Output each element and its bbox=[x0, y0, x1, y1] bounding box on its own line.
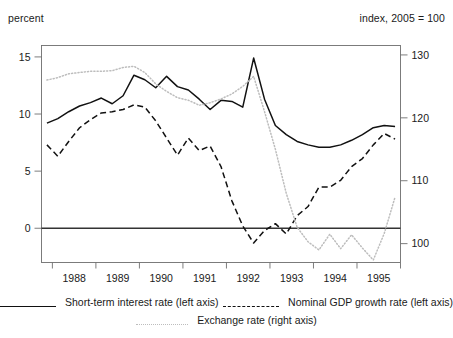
legend-item-exchange-rate: Exchange rate (right axis) bbox=[136, 314, 317, 326]
svg-text:5: 5 bbox=[25, 165, 31, 177]
legend-label-exchange-rate: Exchange rate (right axis) bbox=[197, 314, 317, 326]
legend-label-short-term-interest-rate: Short-term interest rate (left axis) bbox=[65, 296, 218, 308]
legend-row-primary: Short-term interest rate (left axis) Nom… bbox=[0, 296, 453, 308]
series-line-1 bbox=[47, 105, 395, 243]
svg-text:1994: 1994 bbox=[324, 272, 348, 284]
svg-text:120: 120 bbox=[412, 112, 430, 124]
svg-text:1990: 1990 bbox=[149, 272, 173, 284]
x-axis-ticks: 19881989199019911992199319941995 bbox=[52, 263, 400, 284]
svg-text:10: 10 bbox=[19, 108, 31, 120]
data-series-group bbox=[47, 58, 395, 260]
dashed-line-swatch-icon bbox=[223, 298, 279, 307]
solid-line-swatch-icon bbox=[0, 298, 56, 307]
svg-text:1993: 1993 bbox=[280, 272, 304, 284]
legend-item-nominal-gdp-growth-rate: Nominal GDP growth rate (left axis) bbox=[223, 296, 453, 308]
svg-text:1989: 1989 bbox=[106, 272, 130, 284]
svg-text:1995: 1995 bbox=[367, 272, 391, 284]
svg-text:110: 110 bbox=[412, 174, 429, 186]
svg-text:1988: 1988 bbox=[62, 272, 86, 284]
plot-area: 051015 100110120130 19881989199019911992… bbox=[0, 0, 453, 338]
series-line-2 bbox=[47, 66, 395, 260]
left-axis-ticks: 051015 bbox=[19, 51, 42, 234]
right-axis-ticks: 100110120130 bbox=[401, 49, 430, 250]
plot-frame bbox=[42, 46, 401, 263]
svg-text:15: 15 bbox=[19, 51, 31, 63]
legend-item-short-term-interest-rate: Short-term interest rate (left axis) bbox=[0, 296, 218, 308]
svg-text:1991: 1991 bbox=[193, 272, 217, 284]
svg-text:100: 100 bbox=[412, 237, 430, 249]
svg-text:130: 130 bbox=[412, 49, 430, 61]
svg-text:1992: 1992 bbox=[237, 272, 261, 284]
svg-text:0: 0 bbox=[25, 222, 31, 234]
legend-row-secondary: Exchange rate (right axis) bbox=[0, 314, 453, 326]
legend-label-nominal-gdp-growth-rate: Nominal GDP growth rate (left axis) bbox=[288, 296, 453, 308]
chart-figure: percent index, 2005 = 100 051015 1001101… bbox=[0, 0, 453, 338]
dotted-line-swatch-icon bbox=[136, 316, 188, 325]
series-line-0 bbox=[47, 58, 395, 147]
